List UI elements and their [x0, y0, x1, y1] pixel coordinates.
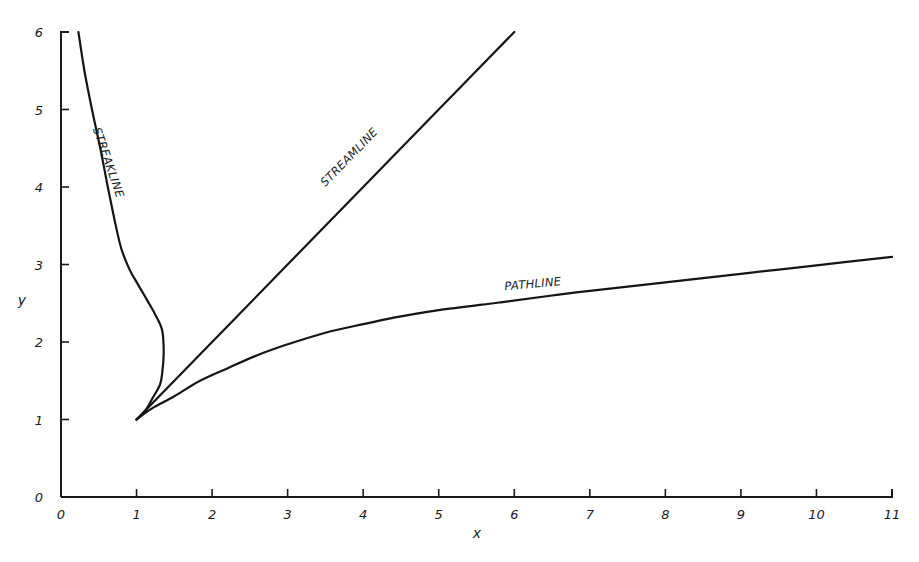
flow-lines-chart: 01234567891011 0123456 x y STREAMLINEPAT…: [0, 0, 919, 562]
x-tick-label: 3: [283, 507, 291, 522]
streakline-curve: [78, 32, 163, 420]
y-tick-label: 2: [35, 335, 43, 350]
axes: 01234567891011 0123456 x y: [17, 25, 900, 541]
curve-labels: STREAMLINEPATHLINESTREAKLINE: [90, 125, 562, 294]
curves: [78, 32, 892, 420]
x-ticks: 01234567891011: [57, 489, 900, 522]
x-tick-label: 5: [435, 507, 443, 522]
y-tick-label: 0: [35, 490, 43, 505]
y-tick-label: 1: [35, 413, 43, 428]
x-tick-label: 1: [132, 507, 140, 522]
y-tick-label: 5: [35, 103, 43, 118]
streamline-curve: [137, 32, 515, 420]
x-tick-label: 11: [884, 507, 901, 522]
x-tick-label: 4: [359, 507, 367, 522]
x-axis-label: x: [472, 525, 482, 541]
y-axis-label: y: [17, 292, 27, 308]
y-ticks: 0123456: [35, 25, 69, 505]
pathline-label: PATHLINE: [504, 274, 563, 293]
y-tick-label: 4: [35, 180, 43, 195]
y-tick-label: 3: [35, 258, 43, 273]
x-tick-label: 8: [661, 507, 669, 522]
x-tick-label: 10: [808, 507, 825, 522]
x-tick-label: 2: [208, 507, 216, 522]
y-tick-label: 6: [35, 25, 43, 40]
x-tick-label: 9: [737, 507, 745, 522]
x-tick-label: 0: [57, 507, 65, 522]
x-axis: [61, 489, 892, 497]
x-tick-label: 6: [510, 507, 518, 522]
x-tick-label: 7: [586, 507, 595, 522]
